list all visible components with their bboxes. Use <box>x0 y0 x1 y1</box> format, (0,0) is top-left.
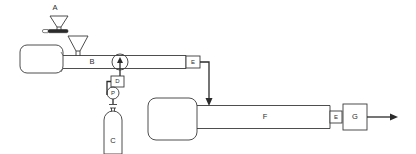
feed-hopper-group <box>68 36 88 56</box>
circle-probe-group <box>112 54 128 77</box>
sample-boat-left-end <box>42 29 48 32</box>
secondary-vessel <box>148 98 197 140</box>
gas-cylinder-icon <box>104 111 122 154</box>
label-e-right: E <box>334 114 338 120</box>
funnel-icon <box>68 36 88 51</box>
label-a: A <box>52 3 57 12</box>
primary-vessel <box>20 45 63 73</box>
label-b: B <box>89 57 94 66</box>
arrow-right-icon <box>390 114 398 121</box>
sample-boat-bar <box>48 30 68 33</box>
label-p: P <box>111 90 115 96</box>
label-d: D <box>115 78 120 84</box>
label-f: F <box>263 112 268 121</box>
diagram-canvas: A B D <box>0 0 416 154</box>
arrow-up-icon <box>117 57 123 63</box>
funnel-with-bar-icon <box>50 16 68 27</box>
label-g: G <box>352 112 358 121</box>
transfer-line <box>200 62 209 100</box>
label-c: C <box>110 136 116 145</box>
arrow-down-icon <box>206 98 213 106</box>
cylinder-valve-fitting <box>109 105 117 109</box>
pressure-gauge-group: P <box>107 87 119 99</box>
label-e-left: E <box>191 59 195 65</box>
sample-holder-group <box>42 16 68 33</box>
apparatus-diagram: A B D <box>0 0 416 154</box>
